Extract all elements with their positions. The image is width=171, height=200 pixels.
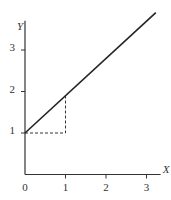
tick-labels: 0123123XY bbox=[10, 20, 171, 193]
y-axis-label: Y bbox=[17, 20, 25, 32]
x-axis-label: X bbox=[162, 163, 170, 175]
y-tick-label: 1 bbox=[10, 124, 16, 136]
axes bbox=[21, 21, 161, 179]
x-tick-label: 3 bbox=[144, 181, 150, 193]
y-tick-label: 2 bbox=[10, 83, 16, 95]
line-chart: 0123123XY bbox=[0, 0, 170, 200]
x-tick-label: 2 bbox=[103, 181, 109, 193]
x-tick-label: 1 bbox=[63, 181, 69, 193]
chart-marks bbox=[25, 13, 156, 133]
y-tick-label: 3 bbox=[10, 41, 16, 53]
x-tick-label: 0 bbox=[22, 181, 28, 193]
series-line bbox=[25, 13, 156, 133]
